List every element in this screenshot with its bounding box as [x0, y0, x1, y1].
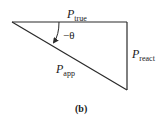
figure-caption: (b)	[75, 104, 87, 114]
apparent-power-label: Papp	[56, 63, 75, 75]
reactive-power-label: Preact	[132, 48, 155, 60]
angle-label: −θ	[63, 30, 74, 41]
true-power-subscript: true	[74, 14, 86, 23]
reactive-power-subscript: react	[139, 54, 155, 63]
power-triangle-figure: Ptrue −θ Preact Papp (b)	[0, 0, 164, 121]
angle-arc-arrow-icon	[54, 22, 59, 42]
true-power-label: Ptrue	[67, 8, 87, 20]
apparent-power-subscript: app	[63, 69, 75, 78]
